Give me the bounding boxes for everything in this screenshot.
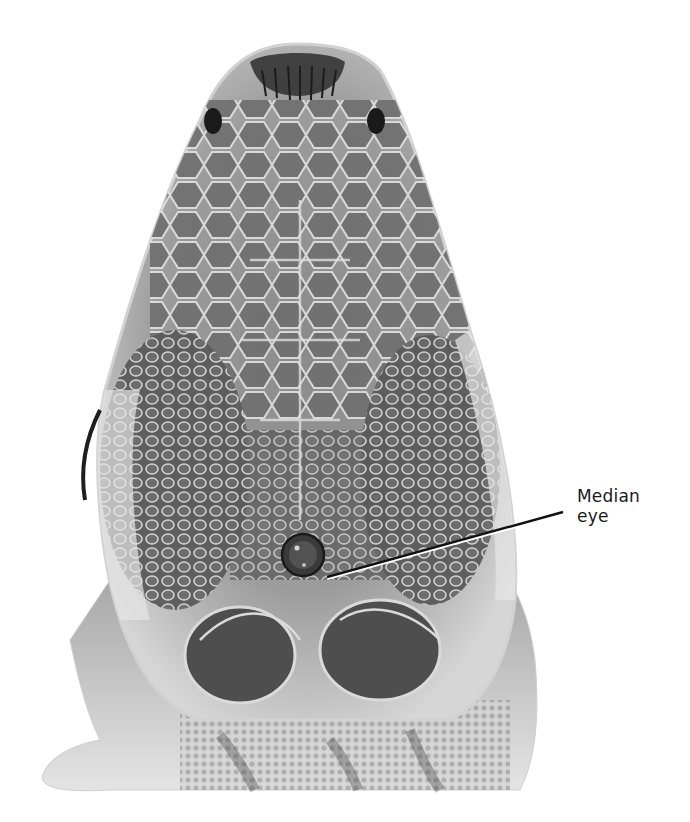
- label-line-2: eye: [577, 506, 640, 526]
- lizard-head-illustration: [0, 0, 690, 822]
- label-line-1: Median: [577, 486, 640, 506]
- median-eye: [282, 534, 324, 576]
- lizard-head-figure: Median eye: [0, 0, 690, 822]
- median-eye-label: Median eye: [577, 486, 640, 526]
- right-nostril: [367, 108, 385, 134]
- left-nostril: [204, 108, 222, 134]
